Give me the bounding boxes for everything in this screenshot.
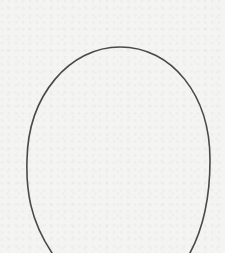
- drawing-canvas: [0, 0, 225, 253]
- egg-outline: [0, 0, 225, 253]
